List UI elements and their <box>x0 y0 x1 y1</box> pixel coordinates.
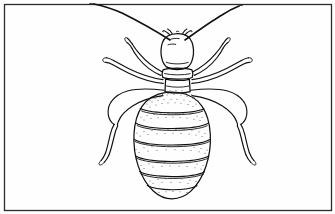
left-antenna <box>90 3 170 40</box>
right-midleg <box>192 58 252 84</box>
abdomen <box>134 92 211 199</box>
right-hindleg <box>191 89 256 165</box>
left-midleg <box>103 58 163 84</box>
left-hindleg <box>99 89 164 165</box>
mesothorax <box>165 79 190 93</box>
figure-container: Termite worker, dorsal view <box>0 0 335 214</box>
right-antenna <box>185 5 242 40</box>
insect-illustration <box>0 0 335 214</box>
head <box>161 34 194 70</box>
